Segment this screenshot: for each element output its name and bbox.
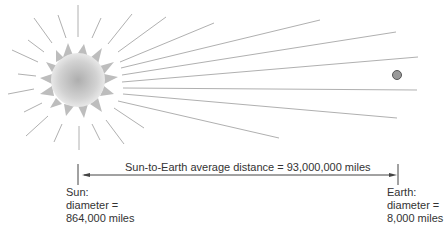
earth-diameter-value: 8,000 miles bbox=[387, 212, 443, 225]
earth-name: Earth: bbox=[387, 186, 443, 199]
sun-name: Sun: bbox=[66, 186, 135, 199]
earth-diameter-label: diameter = bbox=[387, 199, 443, 212]
sun-diameter-value: 864,000 miles bbox=[66, 212, 135, 225]
sun-body bbox=[51, 53, 105, 107]
sun-label: Sun: diameter = 864,000 miles bbox=[66, 186, 135, 225]
sun-diameter-label: diameter = bbox=[66, 199, 135, 212]
earth-label: Earth: diameter = 8,000 miles bbox=[387, 186, 443, 225]
distance-label: Sun-to-Earth average distance = 93,000,0… bbox=[125, 161, 371, 174]
earth-body bbox=[393, 71, 402, 80]
